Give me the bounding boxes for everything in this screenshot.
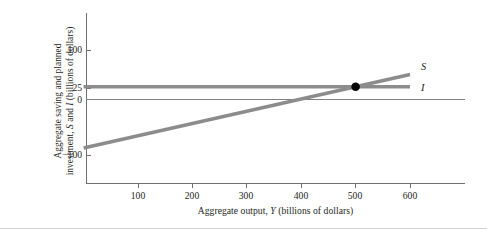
bottom-divider: [0, 228, 487, 229]
x-axis-title: Aggregate output, Y (billions of dollars…: [86, 205, 465, 216]
curve-label-S: S: [421, 61, 426, 72]
equilibrium-point: [351, 82, 360, 91]
curve-label-I: I: [421, 82, 425, 93]
x-axis-title-post: (billions of dollars): [276, 205, 354, 216]
x-axis-title-pre: Aggregate output,: [198, 205, 271, 216]
chart-curves: [0, 0, 487, 236]
saving-investment-chart: Aggregate saving and planned investment,…: [0, 0, 487, 236]
